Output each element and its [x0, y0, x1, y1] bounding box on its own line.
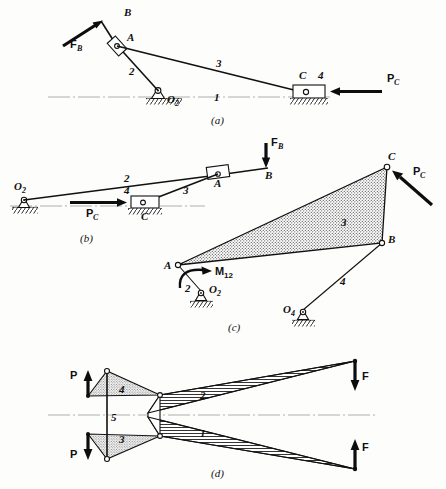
panel-b-ground-O2	[12, 208, 38, 214]
svg-text:F: F	[271, 136, 278, 148]
svg-text:4: 4	[290, 309, 295, 318]
panel-c-label-A: A	[163, 259, 171, 271]
panel-d-label-P-bottom: P	[70, 448, 77, 460]
panel-b-label-link-3: 3	[182, 184, 189, 196]
panel-c-joint-A	[175, 262, 180, 267]
panel-d-force-F-bottom-arrow	[351, 439, 360, 469]
panel-d-label-link-1: 1	[200, 427, 206, 439]
panel-d-center-connector	[148, 395, 160, 436]
panel-b-force-PC-arrow	[70, 198, 127, 207]
panel-b-label-PC: P C	[86, 207, 99, 222]
panel-d-link-1-upper-edge	[148, 417, 355, 469]
panel-d-label-link-5: 5	[111, 411, 117, 423]
svg-text:2: 2	[174, 99, 179, 108]
panel-d-label-link-3: 3	[118, 433, 125, 445]
panel-b-label-FB: F B	[271, 136, 284, 151]
panel-b-label-C: C	[141, 210, 149, 222]
svg-text:M: M	[215, 265, 224, 277]
svg-text:B: B	[277, 142, 284, 151]
svg-text:O: O	[209, 283, 217, 295]
svg-text:C: C	[420, 171, 426, 180]
panel-a-label-A: A	[126, 31, 134, 43]
mechanism-figure-svg: B A C 2 3 1 4 O 2 F B P C (a)	[0, 0, 446, 489]
panel-b-caption: (b)	[80, 232, 93, 245]
svg-text:C: C	[93, 213, 99, 222]
panel-b-label-B: B	[264, 169, 272, 181]
panel-c-label-B: B	[387, 233, 395, 245]
panel-a-label-link-4: 4	[317, 69, 324, 81]
panel-d-caption: (d)	[211, 467, 224, 480]
panel-a-label-B: B	[123, 6, 131, 18]
panel-a-force-PC-arrow	[330, 87, 382, 96]
panel-c-label-O2: O 2	[209, 283, 221, 298]
panel-a-link-3	[117, 46, 306, 93]
panel-d-joint-top-apex	[105, 369, 110, 374]
panel-d-link-1-lower-edge	[160, 436, 355, 469]
panel-d-label-F-bottom: F	[362, 441, 369, 453]
figure-page: B A C 2 3 1 4 O 2 F B P C (a)	[0, 0, 446, 489]
panel-a-slider-4-at-C	[290, 85, 328, 105]
panel-b-label-A: A	[213, 177, 221, 189]
panel-d-label-F-top: F	[362, 370, 369, 382]
svg-text:2: 2	[21, 186, 26, 195]
panel-a-pivot-O2	[152, 88, 165, 99]
panel-c-force-PC-arrow	[392, 171, 432, 206]
panel-c-joint-B	[379, 240, 384, 245]
panel-a-label-FB: F B	[70, 38, 83, 53]
panel-a-label-link-3: 3	[215, 57, 222, 69]
panel-d-label-link-4: 4	[118, 383, 125, 395]
panel-c-label-C: C	[388, 150, 396, 162]
panel-a-label-C: C	[299, 69, 307, 81]
panel-a: B A C 2 3 1 4 O 2 F B P C (a)	[48, 6, 400, 127]
panel-d-label-P-top: P	[70, 369, 77, 381]
svg-text:B: B	[76, 44, 83, 53]
panel-b-label-link-4: 4	[123, 184, 130, 196]
panel-d-joint-bottom-apex	[105, 457, 110, 462]
panel-b: O 2 2 3 4 A B C F B P C (b)	[10, 136, 284, 245]
panel-d: 4 3 5 2 1 P P F F (d)	[48, 359, 375, 480]
panel-c-caption: (c)	[228, 321, 241, 334]
panel-c-label-PC: P C	[413, 165, 426, 180]
panel-c-label-link-4: 4	[339, 275, 346, 287]
panel-d-joint-lower-mid	[158, 434, 163, 439]
panel-c-label-link-2: 2	[184, 282, 191, 294]
panel-b-link-2	[24, 175, 218, 200]
panel-a-label-link-1: 1	[214, 91, 220, 103]
panel-d-joint-upper-mid	[158, 393, 163, 398]
panel-a-label-link-2: 2	[128, 65, 135, 77]
panel-c-pivot-O4	[292, 309, 315, 326]
panel-a-label-O2: O 2	[167, 93, 179, 108]
svg-text:2: 2	[216, 289, 221, 298]
panel-a-caption: (a)	[211, 114, 224, 127]
panel-b-force-FB-arrow	[262, 143, 270, 168]
svg-text:F: F	[70, 38, 77, 50]
panel-a-force-FB-arrow	[63, 21, 103, 47]
panel-d-link-2-lower-edge	[148, 361, 355, 413]
panel-c-label-M12: M 12	[215, 265, 233, 280]
panel-b-label-link-2: 2	[123, 172, 130, 184]
panel-c-joint-C	[384, 164, 390, 170]
panel-d-label-link-2: 2	[199, 389, 206, 401]
panel-c-label-O4: O 4	[283, 303, 295, 318]
panel-d-link-2-upper-edge	[160, 361, 355, 395]
panel-a-label-PC: P C	[387, 72, 400, 87]
svg-text:O: O	[167, 93, 175, 105]
svg-text:C: C	[394, 78, 400, 87]
panel-d-force-F-top-arrow	[351, 361, 360, 391]
svg-text:O: O	[14, 180, 22, 192]
svg-text:O: O	[283, 303, 291, 315]
panel-c-link-3-body	[178, 167, 387, 265]
panel-b-label-O2: O 2	[14, 180, 26, 195]
svg-text:12: 12	[224, 271, 233, 280]
panel-c-label-link-3: 3	[340, 216, 347, 228]
